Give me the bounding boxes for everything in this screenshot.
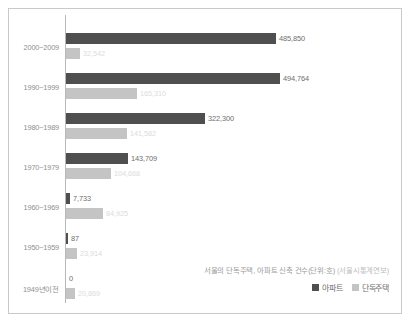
bar-value-apartment: 322,300 bbox=[208, 114, 234, 123]
bar-value-apartment: 7,733 bbox=[73, 194, 91, 203]
legend-swatch-icon bbox=[312, 284, 319, 291]
bar-apartment bbox=[66, 73, 280, 84]
legend-item-house[interactable]: 단독주택 bbox=[352, 282, 389, 293]
bar-row-apartment: 87 bbox=[66, 233, 79, 244]
bar-house bbox=[66, 128, 127, 139]
bar-row-house: 23,914 bbox=[66, 248, 102, 259]
category-label: 1980~1989 bbox=[9, 123, 59, 132]
legend-swatch-icon bbox=[352, 284, 359, 291]
bar-row-house: 84,925 bbox=[66, 208, 128, 219]
bar-value-house: 84,925 bbox=[106, 209, 128, 218]
bar-apartment bbox=[66, 193, 70, 204]
chart-frame: 2000~2009 485,850 32,542 1990~1999 494,7… bbox=[8, 8, 402, 314]
bar-apartment bbox=[66, 113, 205, 124]
category-label: 1970~1979 bbox=[9, 163, 59, 172]
bar-row-apartment: 322,300 bbox=[66, 113, 234, 124]
category-label: 2000~2009 bbox=[9, 43, 59, 52]
category-group: 1970~1979 143,709 104,668 bbox=[9, 151, 403, 189]
bar-house bbox=[66, 288, 75, 299]
bar-value-house: 32,542 bbox=[83, 49, 105, 58]
legend-item-apartment[interactable]: 아파트 bbox=[312, 282, 342, 293]
bar-house bbox=[66, 248, 77, 259]
bar-value-house: 165,310 bbox=[140, 89, 166, 98]
caption-text: 서울의 단독주택, 아파트 신축 건수(단위:호) bbox=[204, 266, 335, 275]
bar-value-house: 104,668 bbox=[114, 169, 140, 178]
bar-house bbox=[66, 168, 111, 179]
category-label: 1950~1959 bbox=[9, 243, 59, 252]
bar-value-apartment: 0 bbox=[69, 274, 73, 283]
bar-row-house: 104,668 bbox=[66, 168, 140, 179]
bar-apartment bbox=[66, 33, 276, 44]
bar-apartment bbox=[66, 153, 128, 164]
bar-value-apartment: 87 bbox=[71, 234, 79, 243]
bar-apartment bbox=[66, 233, 68, 244]
bar-value-apartment: 143,709 bbox=[131, 154, 157, 163]
category-group: 1990~1999 494,764 165,310 bbox=[9, 71, 403, 109]
bar-value-apartment: 494,764 bbox=[283, 74, 309, 83]
chart-legend: 아파트 단독주택 bbox=[312, 282, 389, 293]
bar-row-house: 32,542 bbox=[66, 48, 105, 59]
bar-row-house: 141,582 bbox=[66, 128, 156, 139]
category-group: 2000~2009 485,850 32,542 bbox=[9, 31, 403, 69]
category-group: 1960~1969 7,733 84,925 bbox=[9, 191, 403, 229]
bar-row-apartment: 7,733 bbox=[66, 193, 91, 204]
category-group: 1980~1989 322,300 141,582 bbox=[9, 111, 403, 149]
bar-house bbox=[66, 48, 80, 59]
bar-row-apartment: 494,764 bbox=[66, 73, 309, 84]
bar-value-house: 23,914 bbox=[80, 249, 102, 258]
category-label: 1990~1999 bbox=[9, 83, 59, 92]
chart-caption: 서울의 단독주택, 아파트 신축 건수(단위:호) (서울시통계연보) bbox=[204, 264, 389, 275]
bar-row-apartment: 143,709 bbox=[66, 153, 157, 164]
bar-house bbox=[66, 208, 103, 219]
category-label: 1949년이전 bbox=[9, 283, 59, 294]
bar-value-house: 20,869 bbox=[78, 289, 100, 298]
caption-source: (서울시통계연보) bbox=[337, 266, 389, 275]
category-label: 1960~1969 bbox=[9, 203, 59, 212]
bar-value-house: 141,582 bbox=[130, 129, 156, 138]
bar-house bbox=[66, 88, 137, 99]
bar-row-house: 165,310 bbox=[66, 88, 166, 99]
legend-label-house: 단독주택 bbox=[362, 282, 389, 293]
bar-row-apartment: 485,850 bbox=[66, 33, 305, 44]
bar-row-apartment: 0 bbox=[66, 273, 73, 284]
legend-label-apartment: 아파트 bbox=[322, 282, 342, 293]
bar-row-house: 20,869 bbox=[66, 288, 100, 299]
bar-value-apartment: 485,850 bbox=[279, 34, 305, 43]
